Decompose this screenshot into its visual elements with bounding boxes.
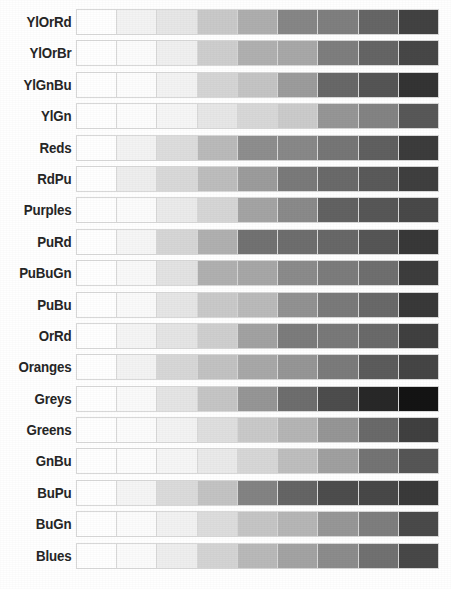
color-swatch — [156, 260, 196, 286]
palette-row: GnBu — [0, 448, 451, 474]
color-swatch — [237, 448, 277, 474]
swatch-strip — [76, 166, 439, 192]
color-swatch — [398, 511, 439, 537]
color-swatch — [277, 166, 317, 192]
color-swatch — [76, 229, 116, 255]
color-swatch — [277, 9, 317, 35]
color-swatch — [398, 354, 439, 380]
color-swatch — [398, 72, 439, 98]
swatch-strip — [76, 511, 439, 537]
color-swatch — [76, 480, 116, 506]
color-swatch — [398, 543, 439, 569]
color-swatch — [317, 197, 357, 223]
palette-row-label: OrRd — [6, 323, 76, 349]
color-swatch — [317, 354, 357, 380]
color-swatch — [116, 135, 156, 161]
color-swatch — [277, 386, 317, 412]
color-swatch — [277, 354, 317, 380]
color-swatch — [76, 135, 116, 161]
color-swatch — [116, 166, 156, 192]
color-swatch — [156, 135, 196, 161]
color-swatch — [116, 103, 156, 129]
palette-row-label: Oranges — [6, 354, 76, 380]
color-swatch — [76, 543, 116, 569]
palette-row: YlOrRd — [0, 9, 451, 35]
color-swatch — [358, 292, 398, 318]
color-swatch — [156, 386, 196, 412]
color-swatch — [197, 417, 237, 443]
color-swatch — [116, 543, 156, 569]
color-swatch — [76, 292, 116, 318]
color-swatch — [76, 103, 116, 129]
palette-row-label: GnBu — [6, 448, 76, 474]
color-swatch — [317, 72, 357, 98]
color-swatch — [398, 292, 439, 318]
color-swatch — [317, 417, 357, 443]
palette-row-label: RdPu — [6, 166, 76, 192]
palette-row-label: Greys — [6, 386, 76, 412]
color-swatch — [237, 72, 277, 98]
color-swatch — [76, 40, 116, 66]
color-swatch — [398, 386, 439, 412]
palette-row: Greys — [0, 386, 451, 412]
palette-row-label: Blues — [6, 543, 76, 569]
color-swatch — [358, 260, 398, 286]
color-swatch — [197, 260, 237, 286]
color-swatch — [317, 386, 357, 412]
color-swatch — [237, 323, 277, 349]
color-swatch — [398, 197, 439, 223]
color-swatch — [156, 417, 196, 443]
color-swatch — [317, 9, 357, 35]
color-swatch — [358, 197, 398, 223]
color-swatch — [156, 480, 196, 506]
color-swatch — [237, 511, 277, 537]
palette-row: OrRd — [0, 323, 451, 349]
color-swatch — [398, 260, 439, 286]
color-swatch — [277, 135, 317, 161]
color-swatch — [156, 72, 196, 98]
color-swatch — [358, 448, 398, 474]
color-swatch — [317, 292, 357, 318]
color-swatch — [197, 166, 237, 192]
color-swatch — [76, 511, 116, 537]
color-swatch — [277, 323, 317, 349]
color-swatch — [237, 40, 277, 66]
palette-row-label: Reds — [6, 135, 76, 161]
color-swatch — [237, 229, 277, 255]
color-swatch — [398, 417, 439, 443]
color-swatch — [197, 9, 237, 35]
color-swatch — [237, 197, 277, 223]
color-swatch — [237, 135, 277, 161]
color-swatch — [116, 417, 156, 443]
color-swatch — [237, 354, 277, 380]
color-swatch — [237, 417, 277, 443]
color-swatch — [116, 229, 156, 255]
color-swatch — [76, 72, 116, 98]
color-swatch — [116, 260, 156, 286]
color-swatch — [358, 9, 398, 35]
palette-row-label: YlGn — [6, 103, 76, 129]
color-swatch — [197, 40, 237, 66]
color-swatch — [76, 386, 116, 412]
color-swatch — [317, 511, 357, 537]
color-swatch — [76, 448, 116, 474]
color-swatch — [398, 166, 439, 192]
color-swatch — [317, 229, 357, 255]
color-swatch — [156, 9, 196, 35]
colorbrewer-palette-figure: YlOrRdYlOrBrYlGnBuYlGnRedsRdPuPurplesPuR… — [0, 0, 451, 589]
palette-row-label: YlGnBu — [6, 72, 76, 98]
color-swatch — [197, 197, 237, 223]
color-swatch — [277, 511, 317, 537]
color-swatch — [156, 292, 196, 318]
palette-row: PuRd — [0, 229, 451, 255]
swatch-strip — [76, 72, 439, 98]
color-swatch — [197, 480, 237, 506]
color-swatch — [358, 511, 398, 537]
color-swatch — [398, 480, 439, 506]
color-swatch — [76, 354, 116, 380]
color-swatch — [398, 9, 439, 35]
palette-row-label: PuBuGn — [6, 260, 76, 286]
color-swatch — [358, 543, 398, 569]
color-swatch — [358, 135, 398, 161]
color-swatch — [76, 323, 116, 349]
